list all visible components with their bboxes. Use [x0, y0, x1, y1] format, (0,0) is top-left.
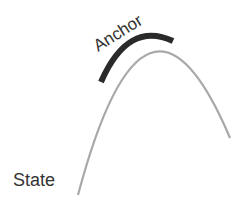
state-curve: [78, 51, 230, 195]
state-label: State: [13, 170, 55, 190]
diagram-canvas: Anchor State: [0, 0, 247, 209]
